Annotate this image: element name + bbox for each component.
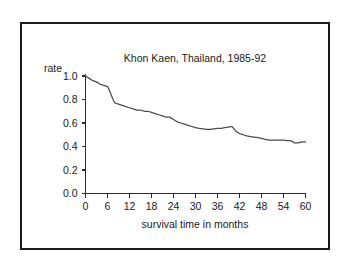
x-tick-label: 36 xyxy=(212,200,224,212)
y-axis-title: rate xyxy=(44,62,62,74)
y-tick-label: 0.4 xyxy=(63,140,78,152)
y-tick-label: 0.6 xyxy=(63,117,78,129)
x-tick-label: 0 xyxy=(83,200,89,212)
y-tick-label: 0.2 xyxy=(63,164,78,176)
figure-root: Khon Kaen, Thailand, 1985-92 rate 0.00.2… xyxy=(0,0,348,270)
x-tick-label: 60 xyxy=(300,200,312,212)
x-tick-label: 42 xyxy=(234,200,246,212)
survival-curve-line xyxy=(86,76,306,143)
y-tick-label: 0.8 xyxy=(63,93,78,105)
survival-curve-chart: Khon Kaen, Thailand, 1985-92 rate 0.00.2… xyxy=(0,0,348,270)
x-tick-label: 48 xyxy=(256,200,268,212)
y-axis-ticks: 0.00.20.40.60.81.0 xyxy=(63,70,86,200)
x-tick-label: 54 xyxy=(278,200,290,212)
x-tick-label: 12 xyxy=(124,200,136,212)
x-tick-label: 18 xyxy=(146,200,158,212)
x-tick-label: 30 xyxy=(190,200,202,212)
x-tick-label: 6 xyxy=(105,200,111,212)
x-axis-ticks: 06121824303642485460 xyxy=(83,194,312,212)
x-axis-title: survival time in months xyxy=(142,218,249,230)
chart-title: Khon Kaen, Thailand, 1985-92 xyxy=(124,52,266,64)
x-tick-label: 24 xyxy=(168,200,180,212)
y-tick-label: 0.0 xyxy=(63,187,78,199)
y-tick-label: 1.0 xyxy=(63,70,78,82)
